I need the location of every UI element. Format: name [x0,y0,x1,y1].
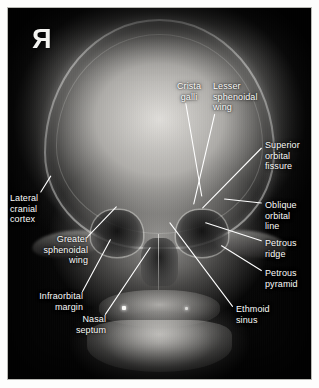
label-oblique-orbital-line: Oblique orbital line [265,200,297,232]
label-crista-galli: Crista galli [169,81,209,102]
label-lateral-cranial-cortex: Lateral cranial cortex [10,193,38,225]
orbit-left [91,210,143,256]
label-petrous-pyramid: Petrous pyramid [265,268,298,289]
label-lesser-sphenoidal-wing: Lesser sphenoidal wing [213,81,258,113]
orbit-right [176,210,228,256]
radiograph-plate: R Crista galliLesser sphenoidal wingSupe… [7,7,312,380]
dental-filling-artifact-left [122,306,126,310]
nasal-septum-structure [158,234,159,290]
mandible [87,320,232,372]
label-greater-sphenoidal-wing: Greater sphenoidal wing [14,234,88,266]
dental-filling-artifact-right [185,307,188,310]
label-ethmoid-sinus: Ethmoid sinus [236,304,270,325]
label-petrous-ridge: Petrous ridge [265,238,297,259]
label-infraorbital-margin: Infraorbital margin [12,291,83,312]
figure-frame: R Crista galliLesser sphenoidal wingSupe… [0,0,319,388]
nasal-cavity [141,238,177,286]
side-marker-r: R [32,26,52,53]
label-nasal-septum: Nasal septum [54,314,106,335]
label-superior-orbital-fissure: Superior orbital fissure [265,140,300,172]
